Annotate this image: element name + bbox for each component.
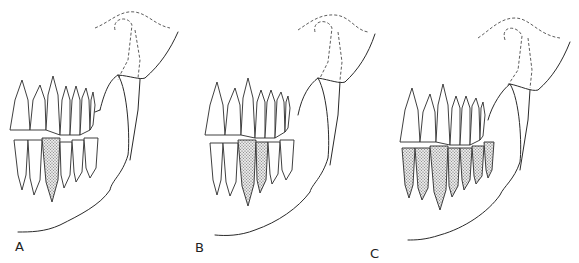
- panel-label-c: C: [370, 246, 379, 261]
- panel-label-b: B: [195, 240, 204, 255]
- panel-label-a: A: [15, 239, 24, 254]
- panel-a: A: [0, 0, 190, 263]
- jaw-diagram-a: [0, 0, 190, 263]
- panel-b: B: [190, 0, 380, 263]
- jaw-diagram-b: [190, 0, 380, 263]
- panel-c: C: [380, 0, 579, 263]
- jaw-diagram-c: [380, 0, 579, 263]
